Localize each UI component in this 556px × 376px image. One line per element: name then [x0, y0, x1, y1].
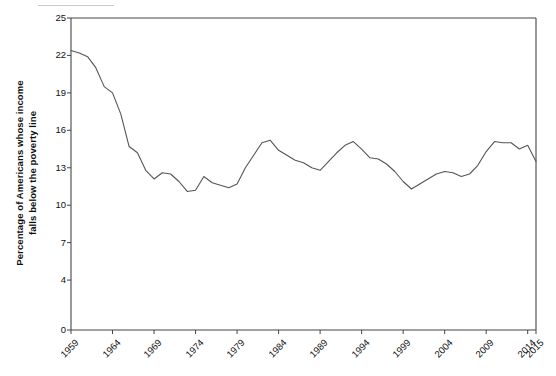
axes	[71, 18, 536, 330]
plot-area	[0, 0, 556, 376]
chart-figure: Percentage of Americans whose income fal…	[0, 0, 556, 376]
poverty-rate-line	[71, 50, 536, 191]
x-axis-ticks	[71, 330, 536, 334]
y-axis-ticks	[67, 18, 71, 330]
